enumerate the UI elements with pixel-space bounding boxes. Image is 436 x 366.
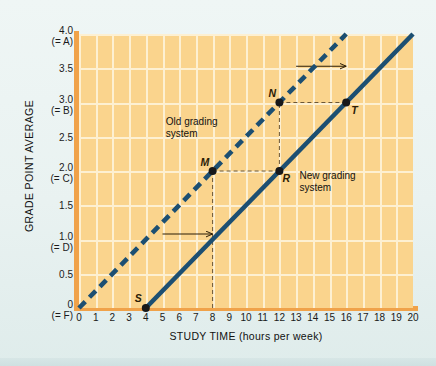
x-tick-label: 20: [403, 312, 423, 323]
gridline-horizontal: [79, 274, 413, 276]
annotation-new-line2: system: [299, 182, 331, 193]
gridline-horizontal: [79, 240, 413, 242]
gridline-horizontal: [79, 34, 413, 36]
y-tick-grade: (= D): [51, 242, 74, 253]
y-tick-label: 1.0(= D): [51, 231, 74, 253]
y-tick-label: 3.0(= B): [51, 94, 73, 116]
point-label-s: S: [135, 292, 142, 304]
y-tick-value: 0: [52, 299, 73, 310]
y-tick-grade: (= C): [51, 173, 74, 184]
gridline-horizontal: [79, 103, 413, 105]
y-tick-value: 3.0: [51, 94, 73, 105]
y-tick-labels: 0(= F)0.51.0(= D)1.52.0(= C)2.53.0(= B)3…: [0, 0, 73, 366]
y-tick-value: 1.0: [51, 231, 74, 242]
y-tick-label: 2.5: [59, 132, 73, 143]
y-tick-value: 2.5: [59, 132, 73, 143]
annotation-new-grading-system: New grading system: [299, 170, 355, 194]
figure-container: 0(= F)0.51.0(= D)1.52.0(= C)2.53.0(= B)3…: [0, 0, 436, 366]
y-tick-label: 0.5: [59, 269, 73, 280]
y-tick-label: 3.5: [59, 63, 73, 74]
gridlines: [79, 34, 413, 308]
point-label-t: T: [351, 104, 357, 116]
plot-area: [79, 34, 413, 308]
point-label-n: N: [268, 87, 276, 99]
y-tick-value: 2.0: [51, 162, 74, 173]
y-tick-value: 4.0: [52, 25, 73, 36]
annotation-old-line1: Old grading: [166, 116, 218, 127]
y-tick-grade: (= A): [52, 36, 73, 47]
gridline-horizontal: [79, 171, 413, 173]
y-tick-value: 3.5: [59, 63, 73, 74]
annotation-old-line2: system: [166, 128, 198, 139]
annotation-old-grading-system: Old grading system: [166, 116, 218, 140]
y-tick-value: 0.5: [59, 269, 73, 280]
point-label-m: M: [201, 156, 210, 168]
y-tick-label: 1.5: [59, 200, 73, 211]
annotation-new-line1: New grading: [299, 170, 355, 181]
y-tick-label: 2.0(= C): [51, 162, 74, 184]
gridline-horizontal: [79, 205, 413, 207]
gridline-horizontal: [79, 68, 413, 70]
gridline-horizontal: [79, 137, 413, 139]
y-axis-title: GRADE POINT AVERAGE: [23, 51, 35, 281]
y-tick-grade: (= B): [51, 105, 73, 116]
point-label-r: R: [282, 172, 290, 184]
y-tick-value: 1.5: [59, 200, 73, 211]
x-axis-title: STUDY TIME (hours per week): [79, 330, 413, 342]
y-tick-label: 4.0(= A): [52, 25, 73, 47]
